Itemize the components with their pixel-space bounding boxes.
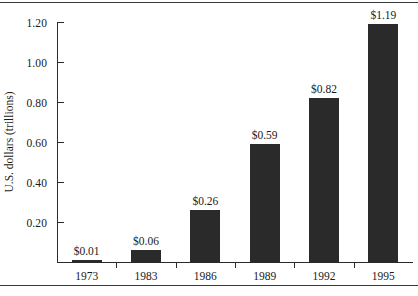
bar[interactable]: $0.01 — [72, 260, 102, 262]
y-tick-label: 0.20 — [26, 217, 47, 229]
bar-slot: $1.19 — [368, 22, 398, 262]
x-axis-label: 1973 — [57, 270, 116, 282]
x-tick-mark — [294, 263, 295, 268]
bar-chart-figure: U.S. dollars (trillions) 0.200.400.600.8… — [0, 0, 418, 296]
x-tick-mark — [116, 263, 117, 268]
bar-slot: $0.01 — [72, 22, 102, 262]
y-tick-mark — [58, 142, 64, 143]
y-tick: 0.60 — [57, 142, 64, 143]
bar[interactable]: $0.06 — [131, 250, 161, 262]
y-tick-mark — [58, 182, 64, 183]
y-tick: 1.20 — [57, 22, 64, 23]
plot-area: 0.200.400.600.801.001.20 $0.01$0.06$0.26… — [57, 22, 413, 262]
x-axis-label: 1989 — [235, 270, 294, 282]
y-tick-mark — [58, 62, 64, 63]
x-axis-label: 1992 — [294, 270, 353, 282]
bar-slot: $0.59 — [250, 22, 280, 262]
y-tick-label: 1.00 — [26, 57, 47, 69]
bar[interactable]: $0.82 — [309, 98, 339, 262]
x-tick-mark — [176, 263, 177, 268]
bar-value-label: $1.19 — [370, 9, 396, 21]
y-tick-label: 0.60 — [26, 137, 47, 149]
bar[interactable]: $0.59 — [250, 144, 280, 262]
y-tick-mark — [58, 22, 64, 23]
x-axis-label: 1995 — [354, 270, 413, 282]
y-tick: 0.20 — [57, 222, 64, 223]
bar-value-label: $0.06 — [133, 235, 159, 247]
bar-value-label: $0.26 — [192, 195, 218, 207]
y-tick: 0.80 — [57, 102, 64, 103]
y-tick-label: 0.80 — [26, 97, 47, 109]
x-axis-label: 1983 — [116, 270, 175, 282]
bottom-divider-rule — [0, 285, 418, 286]
bar-slot: $0.82 — [309, 22, 339, 262]
bar[interactable]: $0.26 — [190, 210, 220, 262]
bar-value-label: $0.59 — [252, 129, 278, 141]
y-tick: 1.00 — [57, 62, 64, 63]
bar[interactable]: $1.19 — [368, 24, 398, 262]
x-axis-label: 1986 — [176, 270, 235, 282]
y-axis-title: U.S. dollars (trillions) — [2, 22, 16, 262]
y-tick-label: 1.20 — [26, 17, 47, 29]
y-axis-title-text: U.S. dollars (trillions) — [3, 92, 15, 193]
bar-slot: $0.06 — [131, 22, 161, 262]
bar-value-label: $0.01 — [74, 245, 100, 257]
y-tick-mark — [58, 102, 64, 103]
y-tick-mark — [58, 222, 64, 223]
top-divider-rule — [0, 2, 418, 3]
x-tick-mark — [235, 263, 236, 268]
y-tick-label: 0.40 — [26, 177, 47, 189]
x-tick-mark — [354, 263, 355, 268]
bar-slot: $0.26 — [190, 22, 220, 262]
y-tick: 0.40 — [57, 182, 64, 183]
bar-value-label: $0.82 — [311, 83, 337, 95]
